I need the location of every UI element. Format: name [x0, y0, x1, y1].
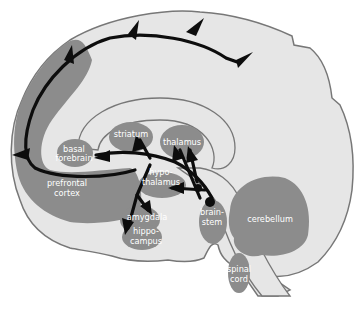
label-spinal: spinal [227, 264, 251, 274]
brain-pathway-diagram: basal forebrain prefrontal cortex striat… [0, 0, 360, 313]
brainstem-node [205, 197, 215, 207]
label-hypothalamus-2: thalamus [142, 177, 180, 187]
label-striatum: striatum [114, 129, 149, 139]
label-cerebellum: cerebellum [247, 214, 293, 224]
label-brainstem-2: stem [202, 217, 223, 227]
label-prefrontal-2: cortex [54, 188, 80, 198]
label-hypothalamus: hypo- [149, 167, 172, 177]
label-hippocampus: hippo- [133, 226, 159, 236]
label-prefrontal: prefrontal [47, 178, 87, 188]
label-spinal-2: cord [230, 274, 248, 284]
brainstem-node [194, 184, 202, 192]
label-brainstem: brain- [200, 207, 224, 217]
label-amygdala: amygdala [127, 212, 168, 222]
label-hippocampus-2: campus [130, 236, 162, 246]
label-basal-forebrain-2: forebrain [55, 153, 92, 163]
label-thalamus: thalamus [163, 137, 201, 147]
